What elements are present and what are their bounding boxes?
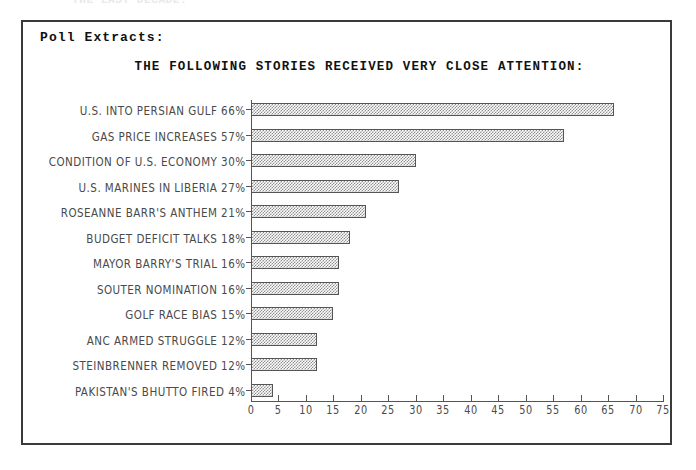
bar-category-label: U.S. MARINES IN LIBERIA 27% bbox=[0, 181, 251, 195]
x-axis-tick bbox=[333, 395, 334, 402]
x-axis-tick bbox=[251, 395, 252, 402]
bar bbox=[251, 256, 339, 269]
x-axis-tick bbox=[388, 395, 389, 402]
x-axis-tick bbox=[278, 395, 279, 402]
bar-row: U.S. MARINES IN LIBERIA 27% bbox=[23, 179, 670, 205]
x-axis-tick bbox=[608, 395, 609, 402]
bar-row: U.S. INTO PERSIAN GULF 66% bbox=[23, 102, 670, 128]
bar bbox=[251, 154, 416, 167]
bar-row: GOLF RACE BIAS 15% bbox=[23, 306, 670, 332]
bar-category-label: STEINBRENNER REMOVED 12% bbox=[0, 359, 251, 373]
bar-row: ROSEANNE BARR'S ANTHEM 21% bbox=[23, 204, 670, 230]
bar-category-label: PAKISTAN'S BHUTTO FIRED 4% bbox=[0, 385, 251, 399]
x-axis-tick bbox=[581, 395, 582, 402]
bar-row: GAS PRICE INCREASES 57% bbox=[23, 128, 670, 154]
x-axis-tick bbox=[443, 395, 444, 402]
x-axis-tick bbox=[498, 395, 499, 402]
bar bbox=[251, 129, 564, 142]
bar bbox=[251, 282, 339, 295]
bar-category-label: ROSEANNE BARR'S ANTHEM 21% bbox=[0, 206, 251, 220]
bar-row: BUDGET DEFICIT TALKS 18% bbox=[23, 230, 670, 256]
bar-category-label: CONDITION OF U.S. ECONOMY 30% bbox=[0, 155, 251, 169]
x-axis-tick bbox=[471, 395, 472, 402]
bar-category-label: GOLF RACE BIAS 15% bbox=[0, 308, 251, 322]
bar-row: MAYOR BARRY'S TRIAL 16% bbox=[23, 255, 670, 281]
bar-category-label: U.S. INTO PERSIAN GULF 66% bbox=[0, 104, 251, 118]
bar-category-label: GAS PRICE INCREASES 57% bbox=[0, 130, 251, 144]
x-axis-tick bbox=[526, 395, 527, 402]
bar-chart-plot-area: U.S. INTO PERSIAN GULF 66%GAS PRICE INCR… bbox=[23, 22, 670, 443]
bar bbox=[251, 307, 333, 320]
bar-category-label: BUDGET DEFICIT TALKS 18% bbox=[0, 232, 251, 246]
x-axis-tick bbox=[306, 395, 307, 402]
bar-row: STEINBRENNER REMOVED 12% bbox=[23, 357, 670, 383]
bar-category-label: ANC ARMED STRUGGLE 12% bbox=[0, 334, 251, 348]
x-axis-tick-label: 75 bbox=[645, 403, 681, 417]
bar bbox=[251, 231, 350, 244]
bar bbox=[251, 103, 614, 116]
bar bbox=[251, 333, 317, 346]
bar bbox=[251, 205, 366, 218]
bar-row: SOUTER NOMINATION 16% bbox=[23, 281, 670, 307]
x-axis-tick bbox=[416, 395, 417, 402]
bar-category-label: SOUTER NOMINATION 16% bbox=[0, 283, 251, 297]
x-axis-tick bbox=[663, 395, 664, 402]
bar bbox=[251, 384, 273, 397]
bar-category-label: MAYOR BARRY'S TRIAL 16% bbox=[0, 257, 251, 271]
bar-row: CONDITION OF U.S. ECONOMY 30% bbox=[23, 153, 670, 179]
poll-extracts-figure: Poll Extracts: THE FOLLOWING STORIES REC… bbox=[21, 20, 672, 445]
clipped-header-text: THE LAST DECADE: bbox=[72, 0, 187, 3]
bar bbox=[251, 180, 399, 193]
bar bbox=[251, 358, 317, 371]
x-axis-tick bbox=[361, 395, 362, 402]
bar-row: ANC ARMED STRUGGLE 12% bbox=[23, 332, 670, 358]
x-axis-tick bbox=[553, 395, 554, 402]
x-axis-tick bbox=[636, 395, 637, 402]
